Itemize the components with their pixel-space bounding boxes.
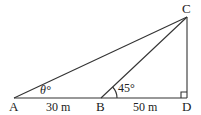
angle-label-B: 45° [118,81,135,95]
point-label-C: C [182,1,191,16]
measurement-AB: 30 m [46,100,71,114]
angle-arc-B [113,87,117,98]
right-angle-marker [181,92,187,98]
angle-label-A: θ° [40,83,51,97]
point-label-D: D [182,99,191,114]
point-label-B: B [96,99,105,114]
point-label-A: A [9,99,19,114]
measurement-BD: 50 m [133,100,158,114]
segment-BC [101,17,187,98]
triangle-diagram: A B C D 30 m 50 m θ° 45° [0,0,201,115]
